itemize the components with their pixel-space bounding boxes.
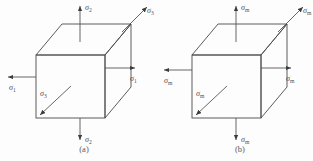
panels-layer: σ1σ1σ2σ2σ3σ3(a)σmσmσmσmσmσm(b)	[8, 3, 312, 154]
sigma-m-back-label: σm	[303, 6, 312, 16]
sigma-m-left: σm	[164, 70, 192, 86]
cube-b	[192, 24, 287, 118]
caption-b: (b)	[235, 144, 245, 154]
sigma-3-back-label: σ3	[147, 6, 154, 16]
sigma-m-right-label: σm	[286, 74, 295, 84]
caption-a: (a)	[79, 144, 89, 154]
sigma-2-top-label: σ2	[85, 3, 92, 13]
panel-a: σ1σ1σ2σ2σ3σ3(a)	[8, 3, 154, 154]
sigma-3-back-shaft	[122, 7, 147, 32]
panel-b: σmσmσmσmσmσm(b)	[164, 3, 312, 154]
sigma-m-top-label: σm	[241, 3, 250, 13]
cube-a	[36, 24, 131, 118]
sigma-m-left-label: σm	[164, 76, 173, 86]
sigma-m-back-shaft	[278, 7, 303, 32]
stress-state-figure: σ1σ1σ2σ2σ3σ3(a)σmσmσmσmσmσm(b)	[0, 0, 313, 161]
sigma-1-left: σ1	[8, 77, 36, 93]
sigma-1-left-label: σ1	[9, 83, 16, 93]
sigma-m-bottom: σm	[236, 118, 250, 145]
figure-canvas: σ1σ1σ2σ2σ3σ3(a)σmσmσmσmσmσm(b)	[0, 0, 313, 161]
sigma-2-bottom: σ2	[80, 118, 92, 145]
sigma-1-right-label: σ1	[130, 74, 137, 84]
